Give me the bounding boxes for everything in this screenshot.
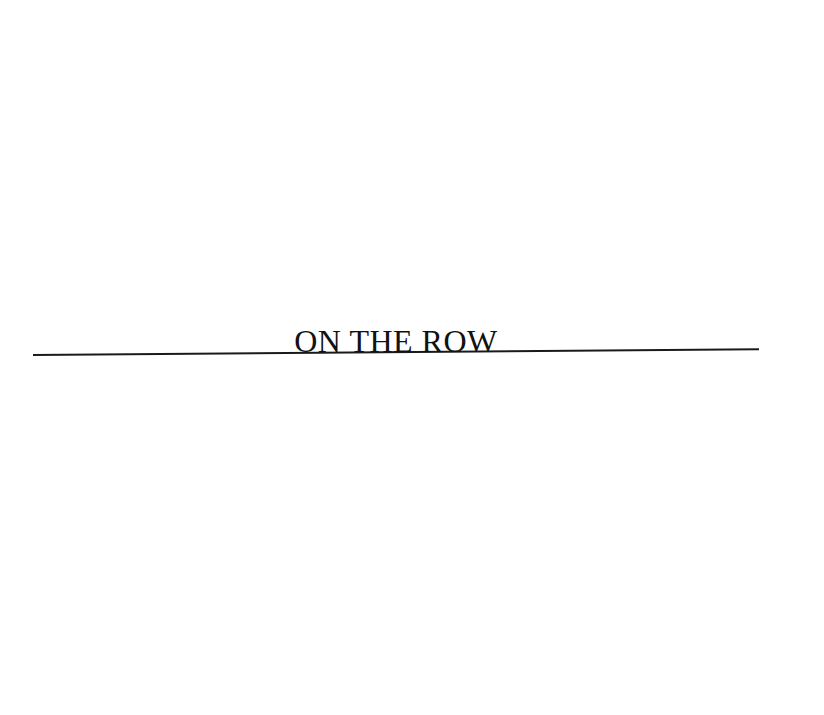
brand-wordmark: ON THE ROW	[280, 325, 512, 357]
logo-canvas: ON THE ROW	[0, 0, 824, 715]
